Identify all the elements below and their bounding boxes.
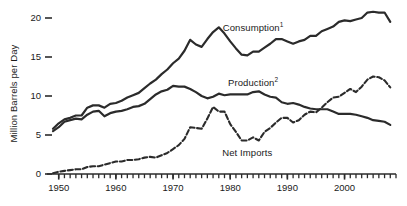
series-label-footnote-marker: 2 (274, 75, 278, 82)
x-tick-label: 1950 (39, 182, 79, 193)
x-tick-label: 1960 (96, 182, 136, 193)
y-tick-label: 10 (19, 90, 41, 101)
x-tick-label: 2000 (325, 182, 365, 193)
series-label-production: Production2 (228, 77, 278, 88)
axis-lines (45, 18, 396, 180)
y-tick-label: 5 (19, 129, 41, 140)
x-tick-label: 1980 (210, 182, 250, 193)
series-label-text: Net Imports (222, 147, 272, 158)
oil-supply-chart: Million Barrels per Day 05101520 1950196… (0, 0, 407, 206)
chart-plot-area (0, 0, 407, 206)
series-label-text: Production (228, 77, 274, 88)
series-label-net-imports: Net Imports (222, 147, 272, 158)
series-label-consumption: Consumption1 (223, 22, 284, 33)
x-tick-label: 1990 (267, 182, 307, 193)
y-tick-label: 20 (19, 12, 41, 23)
series-line-net-imports (53, 77, 390, 174)
y-axis-title: Million Barrels per Day (8, 34, 19, 154)
series-label-footnote-marker: 1 (280, 21, 284, 28)
x-tick-label: 1970 (153, 182, 193, 193)
y-tick-label: 15 (19, 51, 41, 62)
series-label-text: Consumption (223, 22, 280, 33)
y-tick-label: 0 (19, 168, 41, 179)
